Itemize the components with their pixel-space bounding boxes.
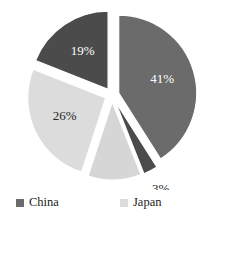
pie-plot-area: 41%3%11%26%19% [0, 0, 227, 190]
chart-legend: ChinaJapanUnited StatesGermanyOther coun… [16, 194, 227, 250]
pie-chart: 41%3%11%26%19% ChinaJapanUnited StatesGe… [0, 0, 227, 253]
legend-item-label: China [29, 194, 59, 211]
pie-slice-label: 19% [71, 43, 95, 58]
pie-slice-label: 3% [152, 181, 170, 190]
legend-swatch-icon [120, 199, 128, 207]
pie-slices [28, 11, 197, 180]
legend-item[interactable]: Japan [120, 194, 227, 211]
pie-slice-label: 26% [53, 108, 77, 123]
legend-swatch-icon [16, 199, 24, 207]
pie-slice-label: 41% [150, 71, 174, 86]
legend-item-label: Japan [133, 194, 161, 211]
legend-item[interactable]: China [16, 194, 120, 211]
pie-svg: 41%3%11%26%19% [0, 0, 227, 190]
